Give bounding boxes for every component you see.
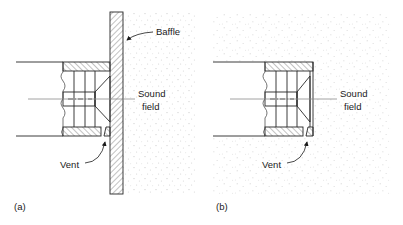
vent-label-b: Vent	[262, 159, 281, 170]
enclosure-bottom-wall-b	[265, 127, 303, 136]
enclosure-bottom-wall-a	[63, 127, 101, 136]
panel-a: Baffle Sound field Vent (a)	[14, 12, 195, 212]
caption-a: (a)	[14, 201, 26, 212]
sound-field-label-line1-b: Sound	[340, 88, 367, 99]
diagram-canvas: Baffle Sound field Vent (a)	[0, 0, 403, 225]
enclosure-top-wall-b	[265, 62, 313, 71]
baffle-wall	[110, 12, 123, 194]
vent-label-a: Vent	[60, 159, 79, 170]
sound-field-label-line1-a: Sound	[138, 88, 165, 99]
vent-block-a	[104, 127, 110, 136]
sound-field-label-line2-a: field	[142, 101, 159, 112]
figure-root: Baffle Sound field Vent (a)	[0, 0, 403, 225]
enclosure-top-wall-a	[63, 62, 110, 71]
sound-field-label-line2-b: field	[344, 101, 361, 112]
vent-leader-a	[85, 142, 105, 163]
caption-b: (b)	[216, 201, 228, 212]
baffle-label: Baffle	[156, 26, 180, 37]
panel-b: Sound field Vent (b)	[213, 12, 391, 212]
